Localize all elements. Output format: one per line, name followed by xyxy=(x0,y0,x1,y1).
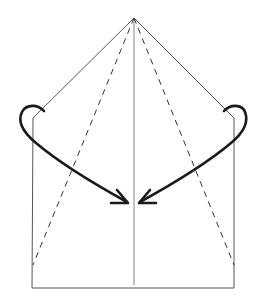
fold-arrow-right-icon xyxy=(139,106,246,203)
fold-diagram xyxy=(0,0,257,306)
valley-fold-left xyxy=(33,18,134,265)
paper-outline xyxy=(32,18,234,288)
valley-fold-right xyxy=(134,18,234,265)
fold-arrow-left-icon xyxy=(20,106,128,203)
